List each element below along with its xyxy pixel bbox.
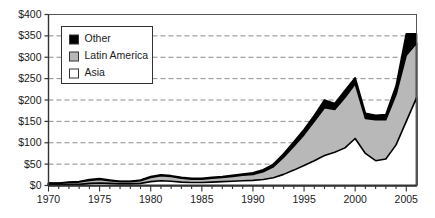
legend-swatch-asia: [70, 69, 79, 78]
x-axis-labels: 19701975198019851990199520002005: [37, 193, 418, 205]
legend-label-latin-america: Latin America: [85, 49, 149, 61]
legend-swatch-other: [70, 35, 79, 44]
legend-label-other: Other: [85, 32, 112, 44]
y-axis-tick-label: $50: [24, 158, 42, 170]
legend-swatch-latin-america: [70, 52, 79, 61]
chart-canvas: $0$50$100$150$200$250$300$350$400 197019…: [0, 0, 435, 218]
x-axis-tick-label: 1975: [88, 193, 112, 205]
x-axis-tick-label: 2000: [343, 193, 367, 205]
y-axis-tick-label: $100: [18, 136, 42, 148]
chart-legend: OtherLatin AmericaAsia: [62, 27, 153, 84]
stacked-area-chart: $0$50$100$150$200$250$300$350$400 197019…: [0, 0, 435, 218]
x-axis-tick-label: 1990: [241, 193, 265, 205]
x-axis-tick-label: 1985: [190, 193, 214, 205]
y-axis-tick-label: $200: [18, 94, 42, 106]
y-axis-tick-label: $350: [18, 29, 42, 41]
x-axis-tick-label: 1970: [37, 193, 61, 205]
y-axis-labels: $0$50$100$150$200$250$300$350$400: [18, 8, 42, 191]
legend-label-asia: Asia: [85, 66, 106, 78]
x-axis-tick-label: 2005: [395, 193, 419, 205]
x-axis-tick-label: 1980: [139, 193, 163, 205]
x-axis-tick-label: 1995: [292, 193, 316, 205]
y-axis-tick-label: $150: [18, 115, 42, 127]
y-axis-tick-label: $300: [18, 51, 42, 63]
y-axis-tick-label: $400: [18, 8, 42, 20]
y-axis-tick-label: $250: [18, 72, 42, 84]
y-axis-tick-label: $0: [30, 179, 42, 191]
